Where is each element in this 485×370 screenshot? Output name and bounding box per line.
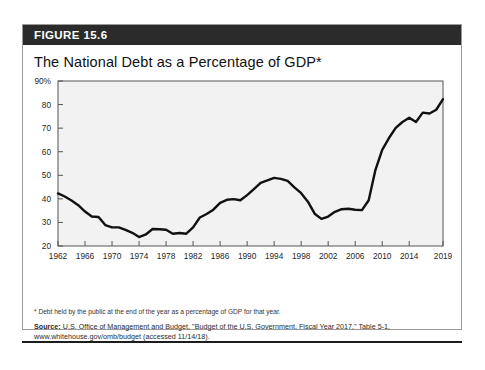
y-tick-label: 20 bbox=[42, 241, 52, 251]
x-tick-label: 1990 bbox=[238, 251, 257, 261]
debt-gdp-line-chart: 2030405060708090% 1962196619701974197819… bbox=[23, 74, 461, 280]
x-tick-label: 1998 bbox=[292, 251, 311, 261]
x-tick-label: 1994 bbox=[265, 251, 284, 261]
figure-title: The National Debt as a Percentage of GDP… bbox=[23, 45, 461, 74]
x-tick-label: 2002 bbox=[319, 251, 338, 261]
y-tick-label: 80 bbox=[42, 100, 52, 110]
source-text: U.S. Office of Management and Budget, "B… bbox=[61, 322, 390, 331]
figure-source: Source: U.S. Office of Management and Bu… bbox=[34, 322, 449, 344]
y-axis-labels: 2030405060708090% bbox=[34, 76, 51, 251]
figure-number-label: FIGURE 15.6 bbox=[34, 29, 107, 41]
figure-notes: * Debt held by the public at the end of … bbox=[34, 307, 449, 343]
figure-header-bar: FIGURE 15.6 bbox=[23, 25, 461, 45]
x-tick-label: 1962 bbox=[49, 251, 68, 261]
x-tick-label: 1974 bbox=[130, 251, 149, 261]
y-tick-label: 90% bbox=[34, 76, 51, 86]
y-tick-label: 50 bbox=[42, 170, 52, 180]
y-tick-label: 60 bbox=[42, 147, 52, 157]
x-axis-labels: 1962196619701974197819821986199019941998… bbox=[49, 251, 453, 261]
x-tick-label: 2014 bbox=[400, 251, 419, 261]
source-label: Source: bbox=[34, 322, 61, 331]
y-tick-label: 70 bbox=[42, 123, 52, 133]
x-tick-label: 1978 bbox=[157, 251, 176, 261]
x-tick-label: 2019 bbox=[434, 251, 453, 261]
plot-background bbox=[58, 81, 443, 246]
x-tick-label: 1982 bbox=[184, 251, 203, 261]
chart-area: 2030405060708090% 1962196619701974197819… bbox=[23, 74, 461, 280]
x-tick-label: 2010 bbox=[373, 251, 392, 261]
x-tick-label: 2006 bbox=[346, 251, 365, 261]
x-tick-label: 1970 bbox=[103, 251, 122, 261]
figure-card: FIGURE 15.6 The National Debt as a Perce… bbox=[22, 24, 462, 330]
bottom-rule bbox=[22, 341, 462, 343]
x-tick-label: 1986 bbox=[211, 251, 230, 261]
y-tick-label: 30 bbox=[42, 217, 52, 227]
x-tick-label: 1966 bbox=[76, 251, 95, 261]
y-tick-label: 40 bbox=[42, 194, 52, 204]
figure-footnote: * Debt held by the public at the end of … bbox=[34, 307, 449, 317]
